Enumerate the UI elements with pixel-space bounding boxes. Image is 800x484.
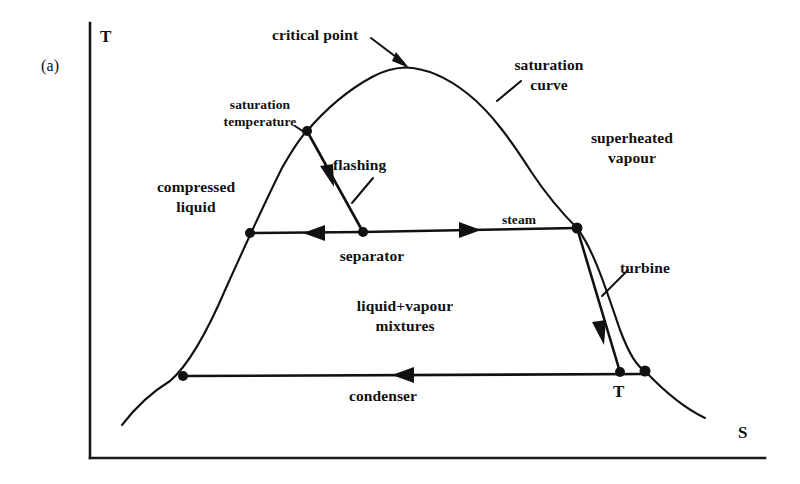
flashing-arrowhead bbox=[320, 164, 334, 187]
flashing-line bbox=[307, 131, 363, 232]
liquid-vapour-mixtures-label-line1: liquid+vapour bbox=[357, 296, 453, 316]
separator-arrowhead bbox=[303, 225, 325, 241]
node-saturation-temperature bbox=[302, 126, 312, 136]
node-condenser-outlet bbox=[178, 371, 188, 381]
saturation-curve-vapour-branch bbox=[405, 68, 705, 419]
node-steam bbox=[572, 223, 583, 234]
saturation-temperature-label-line2: temperature bbox=[224, 113, 297, 130]
superheated-vapour-label-line2: vapour bbox=[608, 148, 656, 168]
turbine-line bbox=[577, 228, 620, 372]
ts-diagram-figure: (a) T S critical point saturation curve … bbox=[0, 0, 800, 484]
steam-arrowhead bbox=[459, 222, 481, 238]
condenser-arrowhead bbox=[392, 367, 414, 383]
condenser-label: condenser bbox=[349, 386, 417, 406]
turbine-arrowhead bbox=[592, 320, 606, 345]
superheated-vapour-label-line1: superheated bbox=[591, 128, 673, 148]
saturation-temperature-label-line1: saturation bbox=[230, 96, 290, 113]
node-compressed-liquid bbox=[245, 228, 255, 238]
saturation-curve-leader bbox=[497, 81, 521, 101]
panel-label: (a) bbox=[41, 56, 59, 76]
node-condenser-inlet bbox=[640, 366, 651, 377]
y-axis-label: T bbox=[100, 27, 111, 47]
critical-point-arrowhead bbox=[392, 52, 409, 68]
flashing-label: flashing bbox=[333, 155, 386, 175]
x-axis-label: S bbox=[738, 423, 748, 443]
turbine-label: turbine bbox=[620, 258, 670, 278]
ts-diagram-canvas bbox=[0, 0, 800, 484]
compressed-liquid-label-line1: compressed bbox=[157, 177, 235, 197]
separator-label: separator bbox=[340, 246, 405, 266]
saturation-curve-label-line1: saturation bbox=[514, 55, 583, 75]
saturation-curve-label-line2: curve bbox=[530, 75, 568, 95]
node-separator bbox=[358, 227, 368, 237]
steam-label: steam bbox=[502, 211, 536, 228]
flashing-leader bbox=[352, 178, 373, 203]
node-turbine-exit bbox=[615, 367, 625, 377]
liquid-vapour-mixtures-label-line2: mixtures bbox=[375, 316, 434, 336]
critical-point-label: critical point bbox=[272, 25, 358, 45]
turbine-exit-temperature-label: T bbox=[613, 382, 624, 402]
compressed-liquid-label-line2: liquid bbox=[176, 197, 215, 217]
